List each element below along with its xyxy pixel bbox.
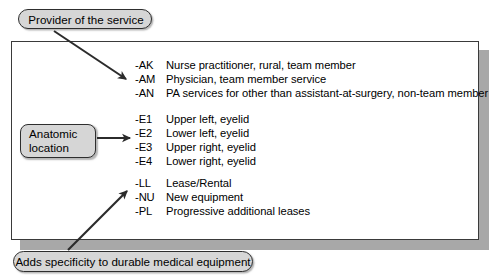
modifier-row: -AM Physician, team member service: [135, 72, 488, 86]
modifier-group-anatomic: -E1 Upper left, eyelid -E2 Lower left, e…: [135, 112, 256, 168]
modifier-group-provider: -AK Nurse practitioner, rural, team memb…: [135, 58, 488, 100]
modifier-code: -E3: [135, 140, 166, 154]
modifier-description: Upper right, eyelid: [166, 140, 256, 154]
modifier-description: Lower right, eyelid: [166, 154, 256, 168]
modifier-row: -AN PA services for other than assistant…: [135, 86, 488, 100]
modifier-row: -E1 Upper left, eyelid: [135, 112, 256, 126]
callout-dme-specificity: Adds specificity to durable medical equi…: [13, 251, 253, 272]
modifier-description: New equipment: [166, 190, 243, 204]
modifier-code: -AM: [135, 72, 166, 86]
modifier-row: -PL Progressive additional leases: [135, 204, 310, 218]
figure-canvas: -AK Nurse practitioner, rural, team memb…: [0, 0, 496, 275]
modifier-code: -E2: [135, 126, 166, 140]
callout-anatomic-label-line1: Anatomic: [29, 127, 77, 141]
callout-provider-of-service: Provider of the service: [18, 9, 152, 29]
modifier-row: -NU New equipment: [135, 190, 310, 204]
callout-anatomic-location: Anatomic location: [20, 124, 96, 158]
modifier-code: -PL: [135, 204, 166, 218]
modifier-row: -E3 Upper right, eyelid: [135, 140, 256, 154]
callout-anatomic-label-line2: location: [29, 141, 69, 155]
modifier-code: -E4: [135, 154, 166, 168]
modifier-code: -AN: [135, 86, 166, 100]
callout-provider-label: Provider of the service: [28, 13, 143, 26]
modifier-group-dme: -LL Lease/Rental -NU New equipment -PL P…: [135, 176, 310, 218]
modifier-code: -LL: [135, 176, 166, 190]
modifier-code: -NU: [135, 190, 166, 204]
modifier-description: Lower left, eyelid: [166, 126, 249, 140]
modifier-description: PA services for other than assistant-at-…: [166, 86, 488, 100]
modifier-description: Progressive additional leases: [166, 204, 310, 218]
modifier-row: -LL Lease/Rental: [135, 176, 310, 190]
modifier-row: -AK Nurse practitioner, rural, team memb…: [135, 58, 488, 72]
modifier-description: Nurse practitioner, rural, team member: [166, 58, 356, 72]
modifier-description: Physician, team member service: [166, 72, 326, 86]
modifier-description: Lease/Rental: [166, 176, 231, 190]
callout-dme-label: Adds specificity to durable medical equi…: [15, 255, 250, 268]
modifier-code: -E1: [135, 112, 166, 126]
modifier-description: Upper left, eyelid: [166, 112, 249, 126]
modifier-row: -E4 Lower right, eyelid: [135, 154, 256, 168]
modifier-row: -E2 Lower left, eyelid: [135, 126, 256, 140]
modifier-code: -AK: [135, 58, 166, 72]
